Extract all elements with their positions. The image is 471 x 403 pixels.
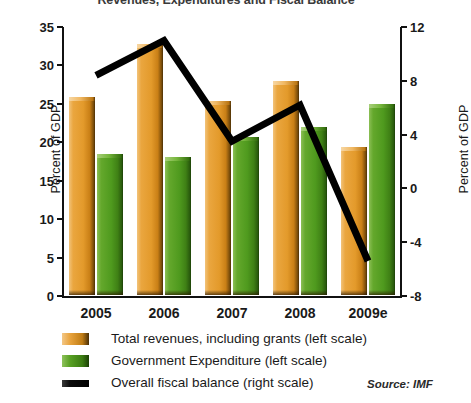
balance-line-swatch [62,380,89,387]
left-tick-label-15: 15 [14,175,54,188]
left-tick-label-10: 10 [14,213,54,226]
category-label-2008: 2008 [266,305,334,321]
right-tick-label-12: 12 [410,21,450,34]
revenue-swatch [62,333,89,345]
category-label-2009e: 2009e [334,305,402,321]
left-tick-label-5: 5 [14,252,54,265]
category-label-2005: 2005 [62,305,130,321]
chart-legend: Total revenues, including grants (left s… [62,329,452,395]
legend-label-2: Government Expenditure (left scale) [111,351,327,371]
right-tick-label-0: 0 [410,182,450,195]
expenditure-swatch [62,355,89,367]
right-axis-title: Percent of GDP [457,69,471,229]
right-tick-label-4: 4 [410,129,450,142]
left-tick-label-25: 25 [14,98,54,111]
plot-area: Percent of GDP Percent of GDP 0510152025… [62,27,402,297]
left-tick-label-35: 35 [14,21,54,34]
left-tick-label-20: 20 [14,136,54,149]
overall-fiscal-balance-line [96,41,368,262]
left-tick-label-30: 30 [14,59,54,72]
right-tick-label-8: 8 [410,75,450,88]
legend-label-3: Overall fiscal balance (right scale) [111,373,314,393]
right-tick-label--8: -8 [410,290,450,303]
left-tick-label-0: 0 [14,290,54,303]
chart-title: Revenues, Expenditures and Fiscal Balanc… [0,0,452,6]
category-label-2007: 2007 [198,305,266,321]
right-tick-label--4: -4 [410,236,450,249]
legend-item-2[interactable]: Government Expenditure (left scale) [62,351,452,372]
legend-label-1: Total revenues, including grants (left s… [111,329,367,349]
category-label-2006: 2006 [130,305,198,321]
fiscal-balance-line-series [62,27,402,298]
source-note: Source: IMF [367,374,433,394]
legend-item-1[interactable]: Total revenues, including grants (left s… [62,329,452,350]
